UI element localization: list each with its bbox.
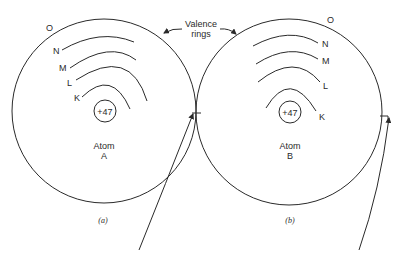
caption-b: (b) — [285, 216, 295, 225]
valence-rings-diagram: +47 O N M L K Atom A (a) +47 O N M L K A… — [0, 0, 404, 267]
caption-a: (a) — [98, 216, 108, 225]
atom-b-shell-l — [258, 67, 320, 82]
valence-rings-annotation: Valence rings — [164, 19, 236, 39]
atom-a-shell-k — [82, 85, 130, 109]
atom-a-label-l: L — [67, 78, 72, 88]
atom-a-shell-m — [70, 52, 136, 68]
atom-b-label-n: N — [322, 39, 329, 49]
atom-b-title: Atom — [279, 141, 300, 151]
atom-a-label-o: O — [46, 23, 53, 33]
atom-a-shell-l — [76, 67, 147, 101]
atom-b: +47 O N M L K Atom B (b) — [196, 15, 382, 225]
atom-a-shell-n — [62, 37, 134, 50]
atom-b-shell-m — [256, 52, 318, 64]
atom-a-label-k: K — [74, 93, 80, 103]
annotation-arrow-left — [164, 29, 182, 33]
atom-b-letter: B — [287, 151, 293, 161]
pointer-arrow-right — [359, 118, 389, 250]
atom-b-label-m: M — [322, 56, 330, 66]
atom-b-label-o: O — [327, 15, 334, 25]
atom-b-label-l: L — [323, 81, 328, 91]
atom-b-shell-n — [253, 35, 318, 46]
atom-a-letter: A — [101, 151, 107, 161]
annotation-arrow-right — [220, 29, 236, 34]
atom-b-label-k: K — [319, 112, 325, 122]
atom-a-label-m: M — [59, 63, 67, 73]
pointer-arrow-junction — [139, 114, 193, 250]
atom-a-label-n: N — [53, 46, 60, 56]
annotation-line-2: rings — [191, 29, 211, 39]
atom-b-nucleus-charge: +47 — [282, 108, 297, 118]
atom-a-title: Atom — [93, 141, 114, 151]
atom-a: +47 O N M L K Atom A (a) — [12, 19, 196, 225]
atom-a-nucleus-charge: +47 — [97, 107, 112, 117]
annotation-line-1: Valence — [185, 19, 217, 29]
